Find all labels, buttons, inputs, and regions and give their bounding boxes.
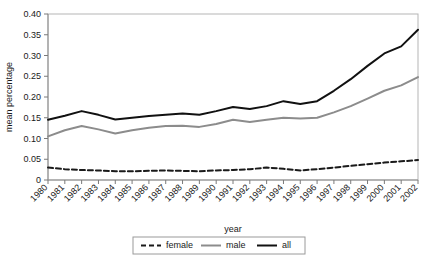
legend-label-female: female <box>166 240 193 250</box>
y-tick-label: 0.05 <box>23 154 41 164</box>
x-tick-label: 1994 <box>264 182 285 203</box>
chart-legend: femalemaleall <box>133 237 305 254</box>
x-tick-label: 1980 <box>28 182 49 203</box>
y-tick-label: 0.30 <box>23 51 41 61</box>
x-axis-ticks: 1980198119821983198419851986198719881989… <box>28 180 419 204</box>
y-tick-label: 0.15 <box>23 113 41 123</box>
data-series-group <box>48 30 418 172</box>
x-tick-label: 1989 <box>180 182 201 203</box>
series-line-all <box>48 30 418 120</box>
y-tick-label: 0.25 <box>23 71 41 81</box>
x-axis-title: year <box>224 224 242 234</box>
x-tick-label: 1998 <box>331 182 352 203</box>
x-tick-label: 1986 <box>129 182 150 203</box>
x-tick-label: 2002 <box>398 182 419 203</box>
x-tick-label: 1983 <box>79 182 100 203</box>
x-tick-label: 1993 <box>247 182 268 203</box>
legend-label-male: male <box>226 240 246 250</box>
legend-label-all: all <box>282 240 291 250</box>
y-tick-label: 0.10 <box>23 134 41 144</box>
plot-frame <box>48 14 418 180</box>
chart-container: 00.050.100.150.200.250.300.350.40 198019… <box>0 0 435 259</box>
x-tick-label: 1982 <box>62 182 83 203</box>
series-line-female <box>48 160 418 171</box>
x-tick-label: 1984 <box>95 182 116 203</box>
x-tick-label: 1996 <box>297 182 318 203</box>
y-axis-ticks: 00.050.100.150.200.250.300.350.40 <box>23 9 48 185</box>
x-tick-label: 1991 <box>213 182 234 203</box>
x-tick-label: 1990 <box>196 182 217 203</box>
x-tick-label: 2000 <box>365 182 386 203</box>
line-chart: 00.050.100.150.200.250.300.350.40 198019… <box>0 0 435 259</box>
x-tick-label: 1992 <box>230 182 251 203</box>
y-tick-label: 0.35 <box>23 30 41 40</box>
plot-border <box>48 14 418 180</box>
x-tick-label: 1985 <box>112 182 133 203</box>
x-tick-label: 1997 <box>314 182 335 203</box>
x-tick-label: 2001 <box>381 182 402 203</box>
y-tick-label: 0.20 <box>23 92 41 102</box>
x-tick-label: 1995 <box>280 182 301 203</box>
x-tick-label: 1988 <box>163 182 184 203</box>
x-tick-label: 1987 <box>146 182 167 203</box>
y-axis-title: mean percentage <box>4 62 14 132</box>
y-tick-label: 0.40 <box>23 9 41 19</box>
x-tick-label: 1981 <box>45 182 66 203</box>
x-tick-label: 1999 <box>348 182 369 203</box>
